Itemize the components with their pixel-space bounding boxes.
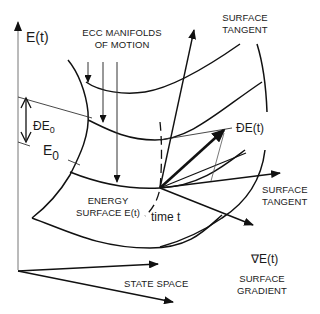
energy-axis-label: E(t)	[26, 30, 49, 45]
gradient-symbol-label: ∇E(t)	[251, 253, 278, 266]
e0-text: E	[43, 142, 52, 158]
delta-e0-text: ĐE	[33, 119, 50, 133]
surface-tangent-top-line1: SURFACE	[210, 13, 280, 23]
delta-e0-double-arrow	[21, 98, 31, 142]
manifolds-label: ECC MANIFOLDS OF MOTION	[82, 28, 162, 50]
energy-surface-line1: ENERGY	[64, 196, 152, 206]
state-space-label: STATE SPACE	[124, 279, 188, 289]
surface-tangent-right-label: SURFACE TANGENT	[262, 185, 308, 207]
surface-tangent-right-line1: SURFACE	[262, 185, 308, 195]
e0-subscript: 0	[52, 149, 59, 163]
energy-surface-label: ENERGY SURFACE E(t)	[64, 196, 152, 218]
energy-surface-line2: SURFACE E(t)	[64, 208, 152, 218]
energy-surface-diagram: E(t) ECC MANIFOLDS OF MOTION SURFACE TAN…	[0, 0, 320, 314]
surface-tangent-top-label: SURFACE TANGENT	[210, 13, 280, 35]
surface-tangent-right-line2: TANGENT	[262, 197, 308, 207]
surface-tangent-top-line2: TANGENT	[210, 25, 280, 35]
e0-label: E0	[43, 143, 59, 158]
manifolds-label-line2: OF MOTION	[82, 40, 162, 50]
time-t-label: time t	[151, 211, 180, 224]
delta-e-t-label: ĐE(t)	[236, 122, 264, 135]
surface-gradient-label: SURFACE GRADIENT	[232, 274, 292, 296]
delta-e0-subscript: 0	[50, 125, 55, 135]
manifolds-label-line1: ECC MANIFOLDS	[82, 28, 162, 38]
surface-gradient-line2: GRADIENT	[232, 286, 292, 296]
surface-gradient-line1: SURFACE	[232, 274, 292, 284]
delta-e0-label: ĐE0	[33, 120, 55, 133]
